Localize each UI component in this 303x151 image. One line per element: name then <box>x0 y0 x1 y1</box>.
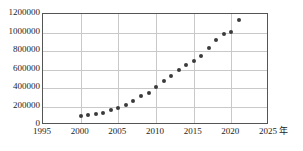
data-point <box>177 68 181 72</box>
x-axis-tick-label: 2025 <box>259 126 277 136</box>
data-point <box>222 32 226 36</box>
data-point <box>199 54 203 58</box>
gridline-horizontal <box>43 107 267 108</box>
x-axis-tick-label: 2000 <box>71 126 89 136</box>
data-point <box>124 103 128 107</box>
data-point <box>79 114 83 118</box>
data-point <box>139 94 143 98</box>
data-point <box>207 46 211 50</box>
data-point <box>101 111 105 115</box>
data-point <box>109 108 113 112</box>
x-axis-tick-label: 2015 <box>184 126 202 136</box>
x-axis-tick-label: 1995 <box>33 126 51 136</box>
data-point <box>237 18 241 22</box>
data-point <box>169 74 173 78</box>
data-point <box>162 79 166 83</box>
data-point <box>147 91 151 95</box>
data-point <box>214 38 218 42</box>
x-axis-unit-label: 年 <box>279 126 288 136</box>
y-axis-tick-label: 200000 <box>13 101 40 110</box>
gridline-horizontal <box>43 33 267 34</box>
plot-area <box>42 13 268 124</box>
scatter-chart: 020000040000060000080000010000001200000 … <box>0 0 303 151</box>
gridline-horizontal <box>43 51 267 52</box>
data-point <box>94 112 98 116</box>
x-axis-tick-label: 2010 <box>146 126 164 136</box>
y-axis-tick-label: 600000 <box>13 64 40 73</box>
data-point <box>229 30 233 34</box>
x-axis-tick-label: 2005 <box>108 126 126 136</box>
y-axis-tick-label: 800000 <box>13 45 40 54</box>
y-axis-tick-label: 1200000 <box>9 8 41 17</box>
y-axis-tick-label: 400000 <box>13 82 40 91</box>
data-point <box>86 113 90 117</box>
x-axis-tick-label: 2020 <box>221 126 239 136</box>
data-point <box>116 106 120 110</box>
data-point <box>184 63 188 67</box>
data-point <box>131 99 135 103</box>
gridline-horizontal <box>43 70 267 71</box>
data-point <box>192 59 196 63</box>
y-axis-tick-label: 1000000 <box>9 27 41 36</box>
